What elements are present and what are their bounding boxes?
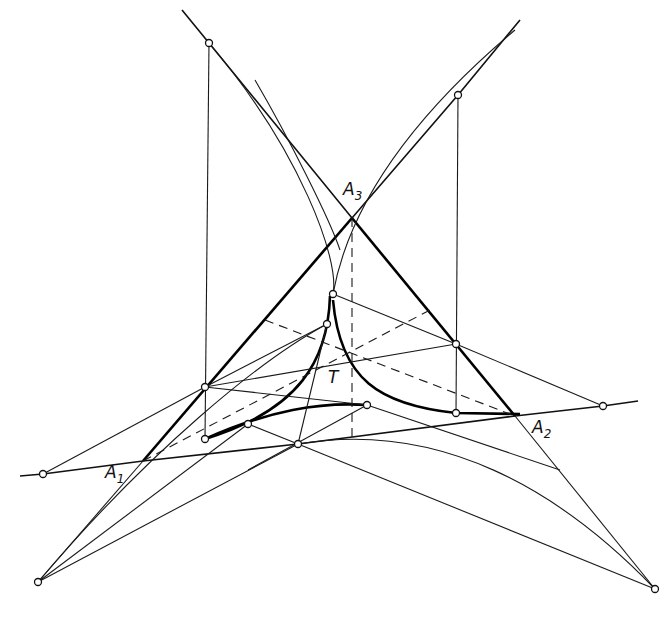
- vertical-left: [205, 43, 209, 439]
- point-baseline-right: [600, 403, 607, 410]
- point-bottom-right: [652, 586, 659, 593]
- line-p4-p2: [205, 324, 327, 387]
- line-p9-bl: [38, 444, 298, 582]
- line-top-right: [352, 20, 520, 218]
- line-p4-p7: [205, 387, 367, 405]
- label-t: T: [328, 367, 340, 387]
- geometry-figure: A3 A1 A2 T: [0, 0, 665, 618]
- line-p3-right: [456, 344, 603, 406]
- side-a3-a2: [352, 218, 515, 416]
- line-p9-br: [298, 444, 655, 589]
- curve-lower-right: [298, 439, 655, 589]
- label-a2: A2: [531, 417, 551, 441]
- line-p4-left: [43, 387, 205, 474]
- point-p2: [324, 321, 331, 328]
- inner-deltoid: [205, 296, 520, 439]
- curve-left-upper: [209, 43, 334, 294]
- line-p6-bl: [38, 424, 248, 582]
- curve-right-upper: [333, 30, 515, 294]
- curve-left-inner: [255, 80, 340, 250]
- construction-lines: [38, 294, 655, 589]
- point-p5: [202, 436, 209, 443]
- line-p2-p9: [298, 324, 327, 444]
- point-p3: [453, 341, 460, 348]
- point-baseline-left: [40, 471, 47, 478]
- label-a3: A3: [342, 179, 362, 203]
- point-top-left: [206, 40, 213, 47]
- point-deltoid-cusp-top: [330, 291, 337, 298]
- vertical-right: [456, 95, 458, 413]
- point-top-right: [455, 92, 462, 99]
- line-a2-br: [515, 416, 655, 589]
- line-p6-p9: [248, 424, 298, 444]
- dashed-to-a2: [265, 320, 515, 416]
- deltoid-bottom-branch: [205, 404, 367, 439]
- deltoid-right-branch: [333, 300, 520, 414]
- outer-curves: [38, 30, 655, 589]
- dashed-from-a1: [143, 310, 430, 461]
- point-p6: [245, 421, 252, 428]
- line-a1-bl: [38, 461, 143, 582]
- point-p9: [295, 441, 302, 448]
- point-bottom-left: [35, 579, 42, 586]
- point-p4: [202, 384, 209, 391]
- point-p7: [364, 402, 371, 409]
- line-p1-p3: [333, 294, 456, 344]
- label-a1: A1: [104, 462, 124, 486]
- points: [35, 40, 659, 593]
- point-p8: [453, 410, 460, 417]
